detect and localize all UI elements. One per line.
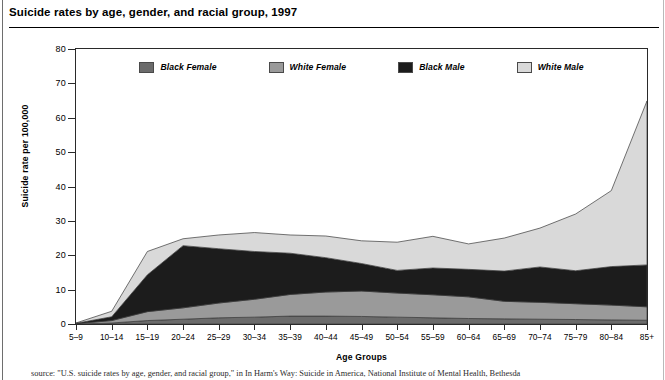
x-tick-mark-10 bbox=[433, 325, 434, 330]
x-tick-label-15: 80–84 bbox=[600, 332, 624, 342]
x-tick-mark-5 bbox=[254, 325, 255, 330]
legend-swatch-black-female bbox=[139, 62, 154, 73]
x-tick-mark-7 bbox=[326, 325, 327, 330]
legend-item-black-female: Black Female bbox=[139, 62, 216, 73]
x-tick-label-14: 75–79 bbox=[564, 332, 588, 342]
chart-area: Suicide rate per 100,000 010203040506070… bbox=[9, 31, 657, 336]
y-tick-mark-70 bbox=[68, 83, 75, 84]
x-tick-label-2: 15–19 bbox=[136, 332, 160, 342]
x-tick-mark-15 bbox=[611, 325, 612, 330]
x-tick-mark-1 bbox=[112, 325, 113, 330]
y-tick-mark-40 bbox=[68, 187, 75, 188]
x-tick-label-10: 55–59 bbox=[421, 332, 445, 342]
y-tick-label-50: 50 bbox=[26, 147, 66, 157]
stacked-area-chart bbox=[76, 49, 647, 324]
chart-page: Suicide rates by age, gender, and racial… bbox=[0, 0, 665, 380]
x-tick-mark-4 bbox=[219, 325, 220, 330]
x-tick-label-12: 65–69 bbox=[492, 332, 516, 342]
x-tick-label-9: 50–54 bbox=[385, 332, 409, 342]
x-tick-label-6: 35–39 bbox=[278, 332, 302, 342]
x-tick-label-3: 20–24 bbox=[171, 332, 195, 342]
page-left-rule bbox=[2, 0, 3, 380]
x-tick-mark-2 bbox=[147, 325, 148, 330]
title-divider bbox=[9, 27, 659, 28]
y-axis: Suicide rate per 100,000 010203040506070… bbox=[9, 31, 75, 325]
y-tick-label-80: 80 bbox=[26, 44, 66, 54]
x-tick-label-4: 25–29 bbox=[207, 332, 231, 342]
chart-legend: Black FemaleWhite FemaleBlack MaleWhite … bbox=[75, 59, 648, 75]
legend-item-white-female: White Female bbox=[269, 62, 347, 73]
x-tick-label-8: 45–49 bbox=[350, 332, 374, 342]
y-tick-mark-0 bbox=[68, 324, 75, 325]
y-tick-mark-50 bbox=[68, 152, 75, 153]
x-tick-mark-11 bbox=[469, 325, 470, 330]
x-tick-mark-16 bbox=[647, 325, 648, 330]
plot-region bbox=[75, 48, 648, 325]
legend-item-white-male: White Male bbox=[517, 62, 584, 73]
x-tick-mark-9 bbox=[397, 325, 398, 330]
figure-source-note: source: "U.S. suicide rates by age, gend… bbox=[31, 369, 655, 378]
legend-swatch-white-male bbox=[517, 62, 532, 73]
x-tick-mark-12 bbox=[504, 325, 505, 330]
plot-inner bbox=[76, 49, 647, 324]
x-tick-mark-14 bbox=[576, 325, 577, 330]
x-tick-label-0: 5–9 bbox=[69, 332, 83, 342]
y-tick-mark-30 bbox=[68, 221, 75, 222]
y-tick-mark-20 bbox=[68, 255, 75, 256]
x-tick-label-11: 60–64 bbox=[457, 332, 481, 342]
x-tick-label-16: 85+ bbox=[640, 332, 654, 342]
chart-title-bar: Suicide rates by age, gender, and racial… bbox=[9, 6, 659, 26]
legend-swatch-white-female bbox=[269, 62, 284, 73]
y-tick-mark-80 bbox=[68, 49, 75, 50]
x-tick-mark-8 bbox=[362, 325, 363, 330]
legend-item-black-male: Black Male bbox=[398, 62, 464, 73]
x-tick-label-7: 40–44 bbox=[314, 332, 338, 342]
legend-label-black-male: Black Male bbox=[419, 62, 464, 72]
y-tick-label-60: 60 bbox=[26, 113, 66, 123]
y-tick-label-10: 10 bbox=[26, 285, 66, 295]
x-tick-mark-6 bbox=[290, 325, 291, 330]
y-tick-mark-60 bbox=[68, 118, 75, 119]
y-tick-label-0: 0 bbox=[26, 319, 66, 329]
x-tick-mark-13 bbox=[540, 325, 541, 330]
legend-label-black-female: Black Female bbox=[160, 62, 216, 72]
chart-title: Suicide rates by age, gender, and racial… bbox=[9, 6, 659, 18]
y-tick-label-70: 70 bbox=[26, 78, 66, 88]
x-tick-label-13: 70–74 bbox=[528, 332, 552, 342]
x-tick-label-1: 10–14 bbox=[100, 332, 124, 342]
y-tick-label-30: 30 bbox=[26, 216, 66, 226]
legend-label-white-female: White Female bbox=[290, 62, 347, 72]
page-right-rule bbox=[663, 0, 664, 380]
x-tick-mark-0 bbox=[76, 325, 77, 330]
y-tick-label-20: 20 bbox=[26, 250, 66, 260]
x-tick-label-5: 30–34 bbox=[243, 332, 267, 342]
legend-swatch-black-male bbox=[398, 62, 413, 73]
legend-label-white-male: White Male bbox=[538, 62, 584, 72]
figure-footer: source: "U.S. suicide rates by age, gend… bbox=[9, 343, 659, 379]
x-tick-mark-3 bbox=[183, 325, 184, 330]
y-tick-mark-10 bbox=[68, 290, 75, 291]
y-tick-label-40: 40 bbox=[26, 182, 66, 192]
